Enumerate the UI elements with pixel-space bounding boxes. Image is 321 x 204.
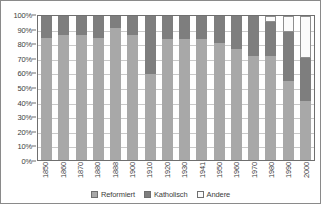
bar-segment-reformiert[interactable] [41, 38, 52, 160]
x-axis-tick: 1860 [58, 162, 69, 178]
bar-segment-katholisch[interactable] [283, 32, 294, 81]
x-axis-tick: 1930 [179, 162, 190, 178]
bar-segment-reformiert[interactable] [231, 49, 242, 160]
bar-segment-reformiert[interactable] [93, 38, 104, 160]
y-axis-tick-label: 50% [18, 84, 32, 93]
chart-container: 100%90%80%70%60%50%40%30%20%10%0% 185018… [0, 0, 321, 204]
y-axis-tick-label: 20% [18, 127, 32, 136]
bar-segment-katholisch[interactable] [231, 16, 242, 49]
x-axis-tick: 1910 [144, 162, 155, 178]
x-axis-tick: 1888 [110, 162, 121, 178]
y-axis-tick-label: 40% [18, 98, 32, 107]
x-axis-tick: 1870 [75, 162, 86, 178]
bar-column[interactable] [196, 16, 207, 160]
y-axis-tick-mark [32, 161, 36, 162]
bar-segment-katholisch[interactable] [93, 16, 104, 38]
legend-swatch-icon [144, 191, 151, 198]
x-axis-tick: 1941 [197, 162, 208, 178]
y-axis-tick-label: 60% [18, 69, 32, 78]
x-axis-tick: 1950 [214, 162, 225, 178]
bar-segment-reformiert[interactable] [248, 56, 259, 160]
x-axis-tick-label: 1941 [197, 162, 208, 178]
bar-segment-katholisch[interactable] [179, 16, 190, 39]
bar-segment-katholisch[interactable] [76, 16, 87, 35]
x-axis-tick-label: 1910 [144, 162, 155, 178]
x-axis-tick: 1900 [127, 162, 138, 178]
bar-segment-reformiert[interactable] [145, 74, 156, 160]
bar-segment-reformiert[interactable] [214, 43, 225, 160]
x-axis-tick: 2000 [301, 162, 312, 178]
legend-item-reformiert[interactable]: Reformiert [91, 190, 135, 199]
y-axis-tick-label: 80% [18, 40, 32, 49]
y-axis: 100%90%80%70%60%50%40%30%20%10%0% [1, 15, 35, 161]
legend-label: Reformiert [101, 190, 135, 199]
legend-swatch-icon [91, 191, 98, 198]
bar-segment-katholisch[interactable] [196, 16, 207, 39]
bar-segment-katholisch[interactable] [110, 16, 121, 28]
x-axis-tick-label: 1980 [266, 162, 277, 178]
x-axis-tick: 1850 [40, 162, 51, 178]
bar-segment-reformiert[interactable] [265, 56, 276, 160]
bar-segment-reformiert[interactable] [76, 35, 87, 160]
y-axis-tick-label: 0% [22, 157, 32, 166]
x-axis-tick-label: 1860 [58, 162, 69, 178]
bar-segment-reformiert[interactable] [110, 28, 121, 160]
y-axis-tick-label: 10% [18, 142, 32, 151]
x-axis-tick: 1920 [162, 162, 173, 178]
bar-segment-reformiert[interactable] [283, 81, 294, 160]
bar-segment-reformiert[interactable] [58, 35, 69, 160]
legend-label: Andere [207, 190, 231, 199]
bar-column[interactable] [248, 16, 259, 160]
legend-label: Katholisch [154, 190, 188, 199]
bar-segment-andere[interactable] [300, 16, 311, 58]
x-axis-tick-label: 1960 [231, 162, 242, 178]
y-axis-tick-label: 100% [14, 11, 32, 20]
y-axis-tick-mark [32, 117, 36, 118]
bar-segment-katholisch[interactable] [265, 22, 276, 57]
x-axis-tick-label: 1870 [75, 162, 86, 178]
y-axis-tick-mark [32, 146, 36, 147]
bar-segment-katholisch[interactable] [58, 16, 69, 35]
bar-column[interactable] [179, 16, 190, 160]
y-axis-tick-mark [32, 88, 36, 89]
x-axis-tick-label: 1970 [249, 162, 260, 178]
bar-segment-katholisch[interactable] [214, 16, 225, 43]
bar-segment-reformiert[interactable] [127, 35, 138, 160]
legend-item-andere[interactable]: Andere [197, 190, 231, 199]
x-axis-tick-label: 1990 [283, 162, 294, 178]
bar-segment-reformiert[interactable] [196, 39, 207, 160]
bar-column[interactable] [231, 16, 242, 160]
x-axis-tick: 1990 [283, 162, 294, 178]
bar-segment-katholisch[interactable] [248, 16, 259, 56]
bar-segment-katholisch[interactable] [127, 16, 138, 35]
bar-column[interactable] [127, 16, 138, 160]
x-axis-tick-label: 1888 [110, 162, 121, 178]
x-axis-tick-label: 1900 [127, 162, 138, 178]
bar-segment-katholisch[interactable] [162, 16, 173, 39]
bar-column[interactable] [300, 16, 311, 160]
bar-column[interactable] [41, 16, 52, 160]
bar-column[interactable] [93, 16, 104, 160]
y-axis-tick-label: 30% [18, 113, 32, 122]
bar-segment-katholisch[interactable] [41, 16, 52, 38]
bar-column[interactable] [162, 16, 173, 160]
x-axis-tick: 1980 [266, 162, 277, 178]
bar-column[interactable] [214, 16, 225, 160]
bar-segment-reformiert[interactable] [300, 101, 311, 160]
bar-column[interactable] [110, 16, 121, 160]
bar-segment-andere[interactable] [283, 16, 294, 32]
bar-segment-reformiert[interactable] [179, 39, 190, 160]
bar-segment-reformiert[interactable] [162, 39, 173, 160]
bar-column[interactable] [76, 16, 87, 160]
bar-column[interactable] [145, 16, 156, 160]
y-axis-tick-mark [32, 44, 36, 45]
legend-item-katholisch[interactable]: Katholisch [144, 190, 188, 199]
bar-column[interactable] [58, 16, 69, 160]
x-axis-tick-label: 1850 [40, 162, 51, 178]
x-axis: 1850186018701880188819001910192019301941… [37, 162, 315, 188]
bar-column[interactable] [283, 16, 294, 160]
bar-segment-katholisch[interactable] [300, 58, 311, 101]
bar-column[interactable] [265, 16, 276, 160]
y-axis-tick-mark [32, 15, 36, 16]
bar-segment-katholisch[interactable] [145, 16, 156, 74]
